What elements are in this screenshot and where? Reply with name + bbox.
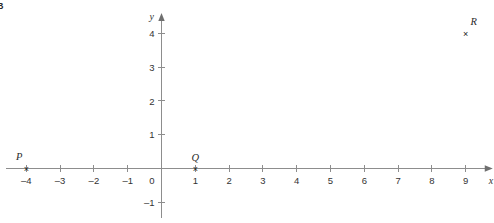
point-marker-p: × — [24, 164, 29, 174]
x-tick-label: 9 — [463, 175, 468, 186]
y-tick-label: 2 — [149, 96, 154, 107]
x-tick-label: 6 — [362, 175, 367, 186]
x-tick-label: –3 — [55, 175, 66, 186]
x-tick-label: 5 — [328, 175, 333, 186]
x-tick-label: 3 — [260, 175, 265, 186]
point-marker-q: × — [193, 164, 198, 174]
x-tick-label: –2 — [89, 175, 100, 186]
y-axis-arrowhead — [158, 13, 164, 21]
plotted-points: ×P×Q×R — [15, 16, 477, 174]
coordinate-plane-figure: B –4–3–2–10123456789 –11234 ×P×Q×R x y — [0, 0, 494, 223]
x-axis-arrowhead — [485, 165, 493, 171]
x-tick-label: 4 — [294, 175, 299, 186]
y-axis-label: y — [149, 11, 155, 22]
x-tick-label: 8 — [429, 175, 434, 186]
axes-group — [6, 13, 493, 217]
x-tick-label: 2 — [226, 175, 231, 186]
point-label-q: Q — [192, 152, 200, 163]
y-tick-label: 4 — [149, 28, 154, 39]
point-label-p: P — [15, 151, 23, 162]
x-tick-label: –4 — [21, 175, 32, 186]
x-axis-label: x — [488, 175, 494, 186]
point-label-r: R — [469, 16, 477, 27]
y-tick-label: 3 — [149, 62, 154, 73]
x-tick-label: 1 — [193, 175, 198, 186]
point-marker-r: × — [463, 29, 468, 39]
y-tick-label: 1 — [149, 129, 154, 140]
x-tick-label: 7 — [395, 175, 400, 186]
y-tick-label: –1 — [144, 197, 155, 208]
x-tick-label: 0 — [149, 175, 154, 186]
coordinate-plot: –4–3–2–10123456789 –11234 ×P×Q×R x y — [0, 0, 494, 223]
x-tick-label: –1 — [122, 175, 133, 186]
